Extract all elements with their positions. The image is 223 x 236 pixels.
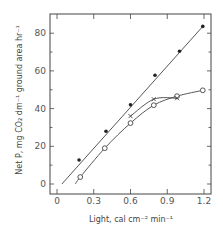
filled-circle-marker [104, 129, 108, 133]
x-tick-label: 0.9 [160, 196, 175, 206]
series-line [62, 26, 203, 184]
filled-circle-marker [178, 49, 182, 53]
y-tick-label: 20 [35, 141, 47, 151]
filled-circle-marker [153, 73, 157, 77]
y-tick-label: 40 [35, 104, 47, 114]
x-axis-label: Light, cal cm⁻² min⁻¹ [89, 215, 173, 224]
open-circle-marker [200, 88, 205, 93]
y-tick-label: 60 [35, 66, 47, 76]
open-circle-marker [128, 121, 133, 126]
x-tick-label: 0.3 [87, 196, 101, 206]
open-circle-marker [78, 175, 83, 180]
x-tick-label: 0.6 [123, 196, 138, 206]
open-circle-marker [102, 146, 107, 151]
x-marker [129, 114, 133, 118]
chart-svg: 020406080 00.30.60.91.2 Light, cal cm⁻² … [0, 0, 223, 236]
open-circle-marker [151, 103, 156, 108]
filled-circle-marker [129, 103, 133, 107]
y-axis-label: Net P, mg CO₂ dm⁻¹ ground area hr⁻¹ [15, 25, 24, 174]
y-tick-label: 0 [40, 179, 46, 189]
y-tick-label: 80 [35, 28, 47, 38]
filled-circle-marker [77, 158, 81, 162]
x-tick-label: 0 [54, 196, 60, 206]
filled-circle-marker [201, 25, 205, 29]
series-line [75, 90, 202, 184]
y-axis-ticks: 020406080 [35, 28, 211, 189]
data-series [62, 25, 205, 184]
x-tick-label: 1.2 [197, 196, 211, 206]
